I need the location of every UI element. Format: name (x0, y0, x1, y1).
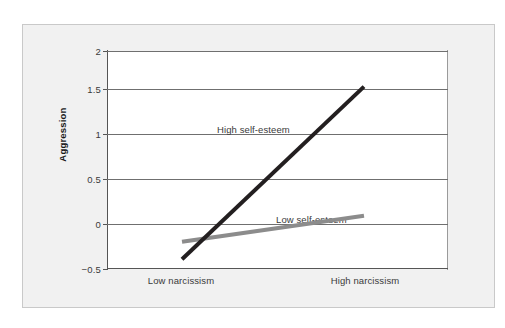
y-tick-label-1-5: 1.5 (61, 84, 101, 95)
x-category-label-high-narcissism: High narcissism (331, 275, 400, 286)
series-label-high-self-esteem: High self-esteem (217, 124, 290, 135)
series-label-low-self-esteem: Low self-esteem (276, 214, 347, 225)
plot-right-border (447, 50, 448, 270)
gridline-1-5 (107, 89, 448, 90)
gridline-2 (107, 51, 448, 52)
figure-panel: Aggression 2 1.5 1 0.5 0 −0.5 Low narcis… (22, 24, 495, 308)
y-tick-label-2: 2 (61, 46, 101, 57)
y-axis-line (107, 50, 108, 270)
y-axis-tick-labels: 2 1.5 1 0.5 0 −0.5 (61, 51, 101, 269)
y-tick-label-neg-0-5: −0.5 (61, 264, 101, 275)
plot-area (107, 51, 448, 269)
gridline-0-5 (107, 179, 448, 180)
y-tick-label-0-5: 0.5 (61, 174, 101, 185)
x-axis-line (107, 268, 448, 269)
y-tick-label-0: 0 (61, 219, 101, 230)
y-tick-label-1: 1 (61, 129, 101, 140)
x-category-label-low-narcissism: Low narcissism (148, 275, 214, 286)
